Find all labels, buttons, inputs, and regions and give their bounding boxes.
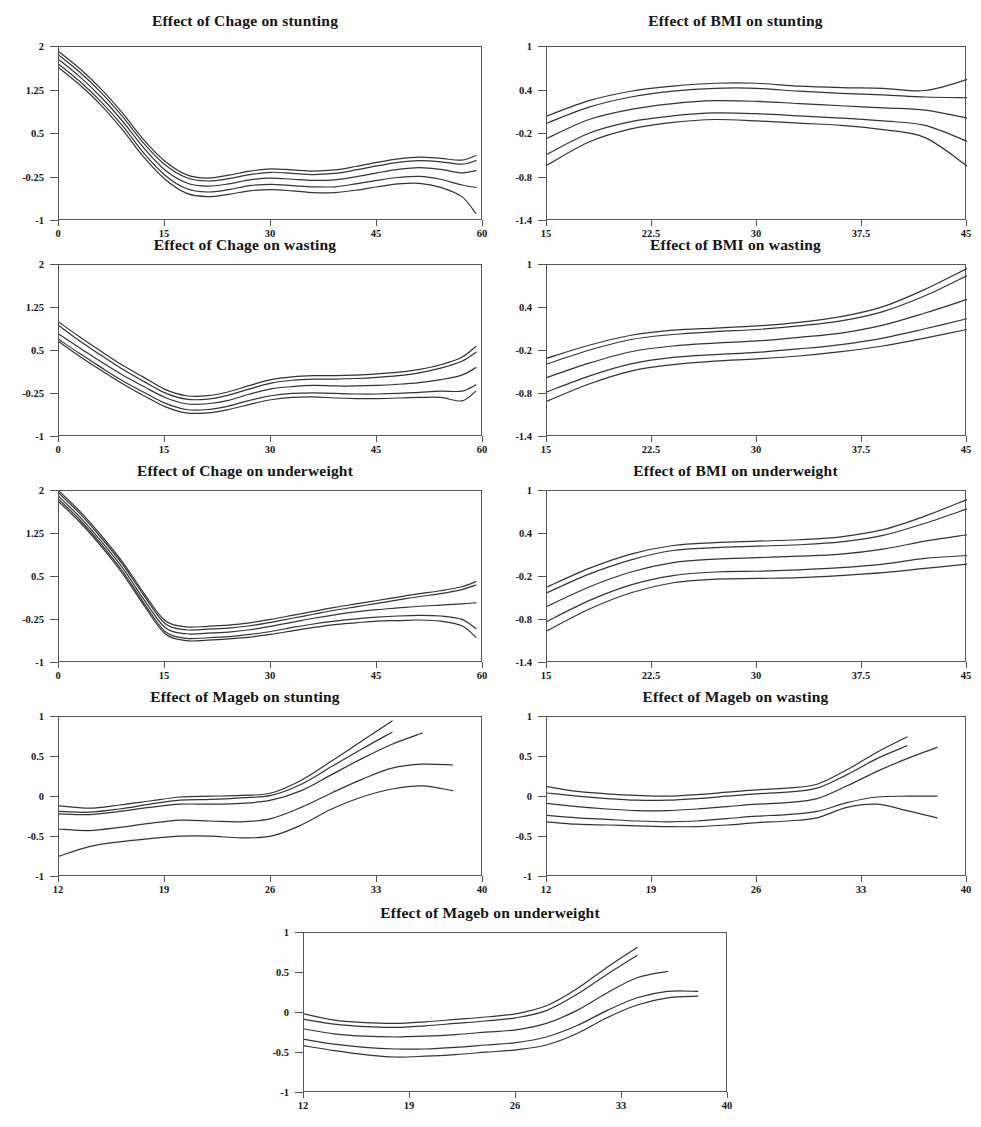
y-tickmark xyxy=(295,932,303,933)
x-tick-label: 33 xyxy=(371,884,382,895)
x-tickmark xyxy=(966,436,967,442)
curve-lower-95 xyxy=(59,342,476,414)
y-tick-label: 0.5 xyxy=(245,967,289,978)
y-tick-label: 0.5 xyxy=(0,571,44,582)
x-tick-label: 26 xyxy=(265,884,276,895)
plot-frame-chage-underweight xyxy=(58,490,482,662)
x-tick-label: 40 xyxy=(722,1100,733,1111)
x-tick-label: 45 xyxy=(961,444,972,455)
curve-upper-80 xyxy=(547,88,967,123)
x-tickmark xyxy=(270,876,271,882)
x-tickmark xyxy=(861,220,862,226)
chart-title-chage-underweight: Effect of Chage on underweight xyxy=(0,462,490,480)
x-tick-label: 30 xyxy=(265,670,276,681)
curve-lower-80 xyxy=(547,113,967,154)
x-tickmark xyxy=(546,662,547,668)
chart-title-chage-stunting: Effect of Chage on stunting xyxy=(0,12,490,30)
curve-lower-95 xyxy=(547,564,967,631)
x-tick-label: 0 xyxy=(55,444,60,455)
y-tickmark xyxy=(50,307,58,308)
chart-title-mageb-wasting: Effect of Mageb on wasting xyxy=(490,688,981,706)
y-tickmark xyxy=(50,133,58,134)
plot-frame-bmi-underweight xyxy=(546,490,966,662)
curve-lower-95 xyxy=(547,804,937,827)
chart-title-mageb-stunting: Effect of Mageb on stunting xyxy=(0,688,490,706)
x-tickmark xyxy=(270,662,271,668)
x-tick-label: 19 xyxy=(404,1100,415,1111)
x-tick-label: 45 xyxy=(371,444,382,455)
y-tick-label: -0.2 xyxy=(488,128,532,139)
x-tick-label: 45 xyxy=(961,670,972,681)
chart-panel-chage-stunting: Effect of Chage on stunting21.250.5-0.25… xyxy=(0,8,490,240)
x-tickmark xyxy=(164,662,165,668)
y-tick-label: -1 xyxy=(0,871,44,882)
curves-chage-stunting xyxy=(59,47,483,221)
x-tickmark xyxy=(376,662,377,668)
plot-frame-mageb-wasting xyxy=(546,716,966,876)
plot-frame-chage-stunting xyxy=(58,46,482,220)
x-tickmark xyxy=(861,662,862,668)
y-tickmark xyxy=(50,350,58,351)
y-tickmark xyxy=(538,90,546,91)
curve-lower-80 xyxy=(547,556,967,622)
y-tickmark xyxy=(50,220,58,221)
y-tick-label: -0.2 xyxy=(488,571,532,582)
x-tick-label: 37.5 xyxy=(852,670,870,681)
chart-panel-mageb-underweight: Effect of Mageb on underweight10.50-0.5-… xyxy=(245,900,735,1122)
y-tick-label: 0.5 xyxy=(0,751,44,762)
y-tick-label: -1 xyxy=(245,1087,289,1098)
y-tick-label: 1.25 xyxy=(0,84,44,95)
x-tick-label: 60 xyxy=(477,670,488,681)
x-tickmark xyxy=(58,436,59,442)
y-tick-label: 0.4 xyxy=(488,302,532,313)
x-tick-label: 33 xyxy=(616,1100,627,1111)
y-tick-label: 0 xyxy=(245,1007,289,1018)
y-tickmark xyxy=(50,576,58,577)
y-tickmark xyxy=(538,836,546,837)
y-tickmark xyxy=(50,436,58,437)
figure-page: Effect of Chage on stunting21.250.5-0.25… xyxy=(0,0,981,1127)
x-tickmark xyxy=(58,220,59,226)
y-tickmark xyxy=(538,716,546,717)
y-tickmark xyxy=(538,576,546,577)
x-tick-label: 22.5 xyxy=(642,670,660,681)
y-tick-label: 2 xyxy=(0,259,44,270)
x-tickmark xyxy=(756,436,757,442)
curves-mageb-wasting xyxy=(547,717,967,877)
y-tick-label: 0.4 xyxy=(488,528,532,539)
y-tick-label: -0.8 xyxy=(488,388,532,399)
y-tick-label: -0.8 xyxy=(488,171,532,182)
y-tick-label: -1.4 xyxy=(488,215,532,226)
y-tick-label: 1 xyxy=(245,927,289,938)
y-tick-label: -0.8 xyxy=(488,614,532,625)
y-tickmark xyxy=(50,836,58,837)
x-tickmark xyxy=(376,876,377,882)
x-tick-label: 12 xyxy=(298,1100,309,1111)
x-tick-label: 40 xyxy=(477,884,488,895)
y-tickmark xyxy=(538,350,546,351)
y-tickmark xyxy=(50,490,58,491)
curve-upper-80 xyxy=(59,55,476,181)
chart-panel-bmi-stunting: Effect of BMI on stunting10.4-0.2-0.8-1.… xyxy=(490,8,981,240)
curve-upper-80 xyxy=(59,732,392,812)
chart-panel-chage-underweight: Effect of Chage on underweight21.250.5-0… xyxy=(0,458,490,690)
x-tickmark xyxy=(861,876,862,882)
y-tickmark xyxy=(538,307,546,308)
x-tick-label: 15 xyxy=(541,444,552,455)
curves-mageb-underweight xyxy=(304,933,728,1093)
y-tick-label: -0.25 xyxy=(0,614,44,625)
y-tickmark xyxy=(538,619,546,620)
x-tickmark xyxy=(727,1092,728,1098)
x-tick-label: 45 xyxy=(371,670,382,681)
y-tick-label: 0 xyxy=(488,791,532,802)
curve-mean xyxy=(304,971,667,1037)
y-tick-label: 1 xyxy=(488,711,532,722)
x-tickmark xyxy=(651,876,652,882)
curve-mean xyxy=(59,60,476,186)
y-tickmark xyxy=(538,220,546,221)
x-tickmark xyxy=(546,436,547,442)
y-tick-label: 1 xyxy=(488,41,532,52)
y-tick-label: 0.5 xyxy=(488,751,532,762)
curve-upper-80 xyxy=(304,955,637,1027)
x-tickmark xyxy=(651,662,652,668)
